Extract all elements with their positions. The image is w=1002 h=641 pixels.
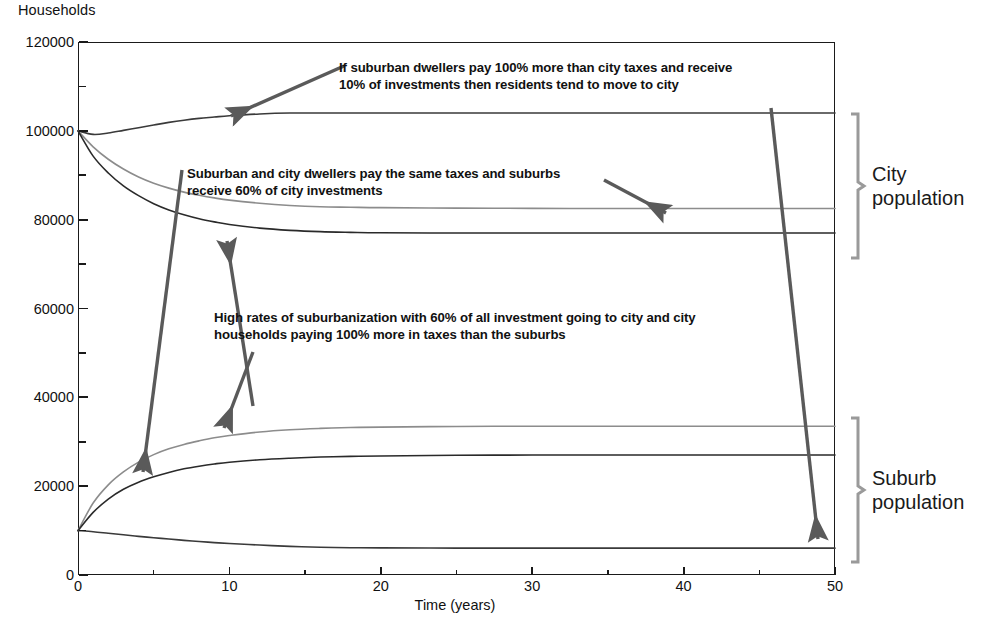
label-suburb-population-line2: population [872,490,964,514]
y-tick-major [79,485,88,487]
x-tick-major [380,567,382,575]
label-city-population-line2: population [872,186,964,210]
y-tick-major [79,130,88,132]
y-tick-major [79,41,88,43]
x-tick-minor [304,570,306,575]
x-tick-label: 50 [827,578,843,594]
x-axis-title-text: Time (years) [415,597,496,613]
y-tick-major [79,308,88,310]
annotation-bottom: High rates of suburbanization with 60% o… [214,309,696,343]
x-tick-label: 0 [74,578,82,594]
x-tick-minor [153,570,155,575]
y-tick-minor [79,530,86,532]
arrow-to-suburb-middle-curve [143,170,182,472]
x-tick-minor [759,570,761,575]
x-tick-major [531,567,533,575]
x-tick-label: 40 [676,578,692,594]
x-tick-major [229,567,231,575]
arrow-to-city-top-curve [231,66,344,116]
chart-figure: Households 02000040000600008000010000012… [0,0,1002,641]
x-tick-minor [456,570,458,575]
x-tick-major [683,567,685,575]
y-tick-major [79,396,88,398]
arrow-to-city-middle-curve [604,180,666,213]
label-suburb-population-line1: Suburb [872,466,964,490]
label-suburb-population: Suburb population [872,466,964,514]
y-tick-minor [79,352,86,354]
y-tick-minor [79,441,86,443]
y-tick-minor [79,174,86,176]
label-city-population: City population [872,162,964,210]
x-tick-minor [607,570,609,575]
arrow-to-suburb-upper-curve [224,352,253,428]
arrow-to-suburb-bottom-curve [771,108,818,539]
x-tick-label: 10 [221,578,237,594]
y-tick-major [79,219,88,221]
x-tick-label: 20 [373,578,389,594]
x-tick-label: 30 [524,578,540,594]
brace-city-population [851,114,864,258]
y-tick-minor [79,263,86,265]
brace-suburb-population [851,418,864,562]
x-tick-major [834,567,836,575]
annotation-top: If suburban dwellers pay 100% more than … [339,59,732,93]
y-tick-major [79,574,88,576]
x-axis-title: Time (years) [0,597,1002,613]
annotation-middle: Suburban and city dwellers pay the same … [187,165,560,199]
y-tick-minor [79,86,86,88]
label-city-population-line1: City [872,162,964,186]
